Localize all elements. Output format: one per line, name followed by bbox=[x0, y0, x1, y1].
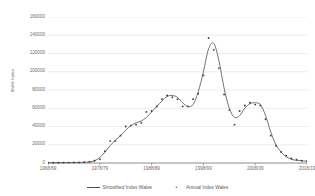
data-point bbox=[104, 150, 106, 152]
data-point bbox=[285, 155, 287, 157]
x-tick-label: 2008/09 bbox=[247, 166, 264, 171]
x-tick-label: 2018/19 bbox=[299, 166, 315, 171]
legend-marker-swatch: • bbox=[170, 185, 183, 190]
data-point bbox=[275, 145, 277, 147]
y-tick-label: 20000 bbox=[1, 142, 45, 147]
plot-area bbox=[48, 17, 307, 163]
data-point bbox=[88, 161, 90, 163]
data-point bbox=[135, 124, 137, 126]
data-point bbox=[145, 111, 147, 113]
y-tick-label: 60000 bbox=[1, 106, 45, 111]
x-tick-label: 1978/79 bbox=[91, 166, 108, 171]
y-tick-label: 0 bbox=[1, 161, 45, 166]
gridlines bbox=[48, 17, 307, 163]
data-point bbox=[187, 105, 189, 107]
data-point bbox=[218, 67, 220, 69]
data-point bbox=[151, 110, 153, 112]
data-point bbox=[156, 105, 158, 107]
data-point bbox=[265, 118, 267, 120]
y-tick-label: 120000 bbox=[1, 51, 45, 56]
data-point bbox=[120, 135, 122, 137]
data-point bbox=[94, 160, 96, 162]
legend-item[interactable]: Smoothed Index Wales bbox=[87, 185, 152, 190]
y-tick-label: 140000 bbox=[1, 33, 45, 38]
data-point bbox=[270, 135, 272, 137]
data-point bbox=[234, 124, 236, 126]
data-point bbox=[166, 95, 168, 97]
data-point bbox=[177, 98, 179, 100]
data-point bbox=[197, 93, 199, 95]
y-tick-label: 40000 bbox=[1, 124, 45, 129]
data-point bbox=[301, 160, 303, 162]
data-point bbox=[259, 105, 261, 107]
data-point bbox=[140, 122, 142, 124]
data-point bbox=[280, 151, 282, 153]
data-point bbox=[244, 105, 246, 107]
data-point bbox=[228, 109, 230, 111]
data-point bbox=[291, 157, 293, 159]
y-tick-label: 80000 bbox=[1, 88, 45, 93]
data-point bbox=[63, 162, 65, 164]
data-point bbox=[306, 160, 307, 162]
y-tick-label: 160000 bbox=[1, 15, 45, 20]
data-point bbox=[130, 125, 132, 127]
data-point bbox=[109, 140, 111, 142]
data-point bbox=[114, 140, 116, 142]
data-point bbox=[52, 162, 54, 164]
data-point bbox=[125, 126, 127, 128]
data-point bbox=[83, 161, 85, 163]
data-point bbox=[213, 49, 215, 51]
data-point bbox=[239, 110, 241, 112]
data-point bbox=[57, 162, 59, 164]
data-point bbox=[161, 98, 163, 100]
data-point bbox=[202, 74, 204, 76]
data-point bbox=[99, 158, 101, 160]
wdis-index-chart: WdIS Index 02000040000600008000010000012… bbox=[0, 0, 315, 196]
x-tick-label: 1988/89 bbox=[143, 166, 160, 171]
data-point bbox=[171, 96, 173, 98]
chart-legend: Smoothed Index Wales•Annual Index Wales bbox=[0, 181, 315, 193]
data-point bbox=[68, 162, 70, 164]
data-point bbox=[78, 162, 80, 164]
legend-item-label: Annual Index Wales bbox=[186, 185, 229, 190]
legend-item-label: Smoothed Index Wales bbox=[103, 185, 152, 190]
data-point bbox=[73, 162, 75, 164]
y-tick-label: 100000 bbox=[1, 69, 45, 74]
legend-item[interactable]: •Annual Index Wales bbox=[170, 185, 229, 190]
data-point bbox=[223, 94, 225, 96]
data-point bbox=[192, 98, 194, 100]
data-point bbox=[249, 102, 251, 104]
x-tick-label: 1968/69 bbox=[40, 166, 57, 171]
data-point bbox=[296, 159, 298, 161]
x-tick-label: 1998/99 bbox=[195, 166, 212, 171]
chart-svg bbox=[48, 17, 307, 166]
x-axis-tick-labels: 1968/691978/791988/891998/992008/092018/… bbox=[0, 166, 315, 178]
data-point bbox=[254, 104, 256, 106]
legend-line-swatch bbox=[87, 187, 100, 188]
data-point bbox=[208, 37, 210, 39]
data-point bbox=[182, 105, 184, 107]
